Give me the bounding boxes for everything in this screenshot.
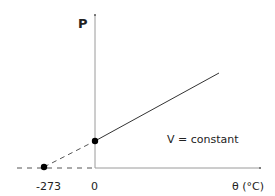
point-zero [92, 138, 98, 144]
x-axis-arrow [259, 167, 261, 169]
extrapolation-line [44, 141, 95, 167]
y-axis-label: P [78, 16, 88, 31]
y-axis-arrow [94, 14, 96, 16]
point-absolute-zero [41, 164, 47, 170]
x-axis-label: θ (°C) [232, 180, 264, 193]
x-tick-minus-273: -273 [36, 180, 61, 193]
pressure-line [95, 73, 219, 141]
annotation-v-constant: V = constant [167, 133, 239, 146]
x-tick-zero: 0 [91, 180, 98, 193]
pressure-temperature-diagram: P -273 0 V = constant θ (°C) [0, 0, 275, 196]
